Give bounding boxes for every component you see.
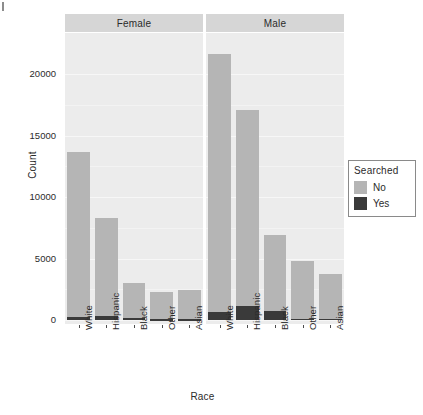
x-tick-mark (79, 325, 80, 328)
legend-label-no: No (373, 182, 386, 193)
x-tick-label: Black (279, 306, 290, 330)
legend-item-yes[interactable]: Yes (354, 195, 409, 211)
y-tick-label: 5000 (12, 254, 56, 264)
facet-strip-label: Male (264, 18, 286, 29)
x-tick-label: White (83, 305, 94, 330)
x-tick-label: Black (138, 306, 149, 330)
x-tick-label: Asian (334, 306, 345, 330)
y-tick-label: 20000 (12, 69, 56, 79)
facet-panel-male (206, 33, 344, 324)
chart-root: Count 05000100001500020000 Female Male W… (0, 0, 423, 415)
y-tick-label: 0 (12, 315, 56, 325)
bar-segment-no[interactable] (67, 152, 90, 317)
bar-segment-no[interactable] (208, 54, 231, 312)
x-tick-mark (303, 325, 304, 328)
x-tick-mark (189, 325, 190, 328)
x-tick-mark (330, 325, 331, 328)
facet-strip-female: Female (65, 14, 203, 32)
x-tick-mark (162, 325, 163, 328)
y-tick-label: 10000 (12, 192, 56, 202)
legend: Searched No Yes (348, 160, 416, 217)
x-tick-label: Other (166, 306, 177, 330)
x-tick-mark (275, 325, 276, 328)
y-tick-label: 15000 (12, 131, 56, 141)
x-tick-mark (220, 325, 221, 328)
x-tick-label: Hispanic (110, 293, 121, 330)
y-axis-ticks: 05000100001500020000 (10, 0, 56, 415)
legend-label-yes: Yes (373, 198, 389, 209)
x-tick-label: Other (307, 306, 318, 330)
scan-artifact (2, 2, 4, 11)
facet-strip-label: Female (117, 18, 152, 29)
x-tick-mark (134, 325, 135, 328)
legend-key-yes (354, 197, 367, 210)
gridline-minor (65, 105, 203, 106)
x-tick-mark (247, 325, 248, 328)
x-tick-mark (106, 325, 107, 328)
facet-panel-female (65, 33, 203, 324)
legend-title: Searched (354, 165, 409, 176)
gridline-major (65, 74, 203, 75)
x-tick-label: Hispanic (251, 293, 262, 330)
bar-segment-no[interactable] (236, 110, 259, 306)
x-tick-label: White (224, 305, 235, 330)
legend-key-no (354, 181, 367, 194)
bar-segment-no[interactable] (264, 235, 287, 311)
x-axis-title: Race (65, 391, 340, 402)
x-tick-label: Asian (193, 306, 204, 330)
legend-item-no[interactable]: No (354, 179, 409, 195)
gridline-major (65, 136, 203, 137)
facet-strip-male: Male (206, 14, 344, 32)
